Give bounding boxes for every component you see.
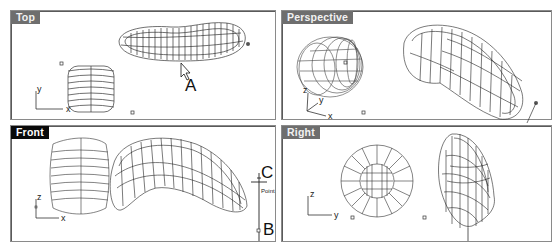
perspective-view-canvas: z y x xyxy=(282,11,551,119)
osnap-label: Point xyxy=(261,188,275,194)
blob-wireframe-perspective xyxy=(404,25,523,119)
axis-label-y: y xyxy=(37,84,42,94)
right-view-canvas: z y xyxy=(282,126,551,241)
grip-point xyxy=(344,61,347,64)
top-view-canvas: y x xyxy=(11,11,275,119)
control-point xyxy=(246,42,250,46)
axis-label-z: z xyxy=(310,189,315,199)
axis-label-y: y xyxy=(334,210,339,220)
viewport-front[interactable]: Front Point z x C B xyxy=(10,125,276,242)
cylinder-wireframe-right xyxy=(341,145,413,217)
blob-wireframe-top xyxy=(119,23,245,61)
callout-a: A xyxy=(185,76,196,96)
grip-point xyxy=(362,111,365,114)
grip-point xyxy=(351,216,354,219)
grip-point xyxy=(131,111,134,114)
front-view-canvas: Point z x xyxy=(11,126,275,241)
viewport-top[interactable]: Top y x A xyxy=(10,10,276,120)
cylinder-wireframe-top xyxy=(68,66,114,112)
cylinder-wireframe-front xyxy=(50,138,109,214)
viewport-perspective[interactable]: Perspective z y x xyxy=(281,10,552,120)
axis-label-x: x xyxy=(66,104,71,114)
grip-point xyxy=(257,229,260,232)
axis-label-z: z xyxy=(303,85,308,95)
callout-c: C xyxy=(261,163,273,183)
callout-b: B xyxy=(263,220,274,240)
axis-label-x: x xyxy=(61,213,66,223)
axis-label-z: z xyxy=(37,192,42,202)
blob-wireframe-front xyxy=(110,138,247,212)
axis-label-y: y xyxy=(319,95,324,105)
viewport-right[interactable]: Right z y xyxy=(281,125,552,242)
grip-point xyxy=(60,62,63,65)
blob-wireframe-right xyxy=(439,134,495,228)
grip-point xyxy=(423,216,426,219)
axis-label-x: x xyxy=(328,111,333,121)
